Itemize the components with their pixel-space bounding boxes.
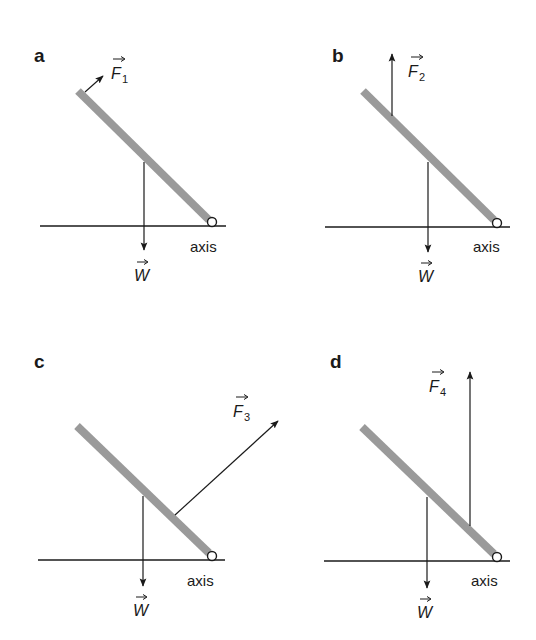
- weight-vector-label: W: [418, 261, 435, 286]
- axis-label: axis: [190, 238, 217, 255]
- svg-text:1: 1: [122, 73, 128, 85]
- panel-d: d W axis F 4: [324, 351, 510, 621]
- force-f2-label: F 2: [408, 55, 425, 84]
- force-f3-label: F 3: [233, 395, 250, 424]
- axis-label: axis: [187, 572, 214, 589]
- svg-text:4: 4: [440, 386, 446, 398]
- axis-label: axis: [471, 572, 498, 589]
- svg-text:2: 2: [419, 71, 425, 83]
- weight-vector-label: W: [133, 595, 150, 620]
- weight-label: W: [133, 602, 150, 619]
- panel-b: b W axis F 2: [325, 45, 510, 285]
- beam: [362, 427, 494, 554]
- pivot-axis-icon: [208, 218, 217, 227]
- panel-label-c: c: [34, 351, 45, 372]
- pivot-axis-icon: [493, 219, 502, 228]
- torque-diagram-figure: a W axis F 1 b W axis: [0, 0, 536, 640]
- force-f4-label: F 4: [429, 370, 446, 399]
- panel-label-a: a: [34, 45, 45, 66]
- svg-text:F: F: [429, 378, 440, 395]
- weight-vector-label: W: [134, 260, 151, 285]
- weight-label: W: [134, 267, 151, 284]
- panel-label-b: b: [332, 45, 344, 66]
- weight-vector-label: W: [417, 597, 434, 622]
- force-f3-arrow: [175, 421, 278, 515]
- svg-text:F: F: [233, 403, 244, 420]
- force-f1-arrow: [85, 76, 103, 92]
- svg-text:F: F: [408, 63, 419, 80]
- axis-label: axis: [473, 238, 500, 255]
- svg-text:3: 3: [244, 411, 250, 423]
- pivot-axis-icon: [493, 553, 502, 562]
- svg-text:F: F: [111, 65, 122, 82]
- panel-a: a W axis F 1: [34, 45, 226, 284]
- panel-c: c W axis F 3: [34, 351, 278, 619]
- weight-label: W: [418, 268, 435, 285]
- panel-label-d: d: [330, 351, 342, 372]
- weight-label: W: [417, 604, 434, 621]
- pivot-axis-icon: [208, 552, 217, 561]
- force-f1-label: F 1: [111, 57, 128, 86]
